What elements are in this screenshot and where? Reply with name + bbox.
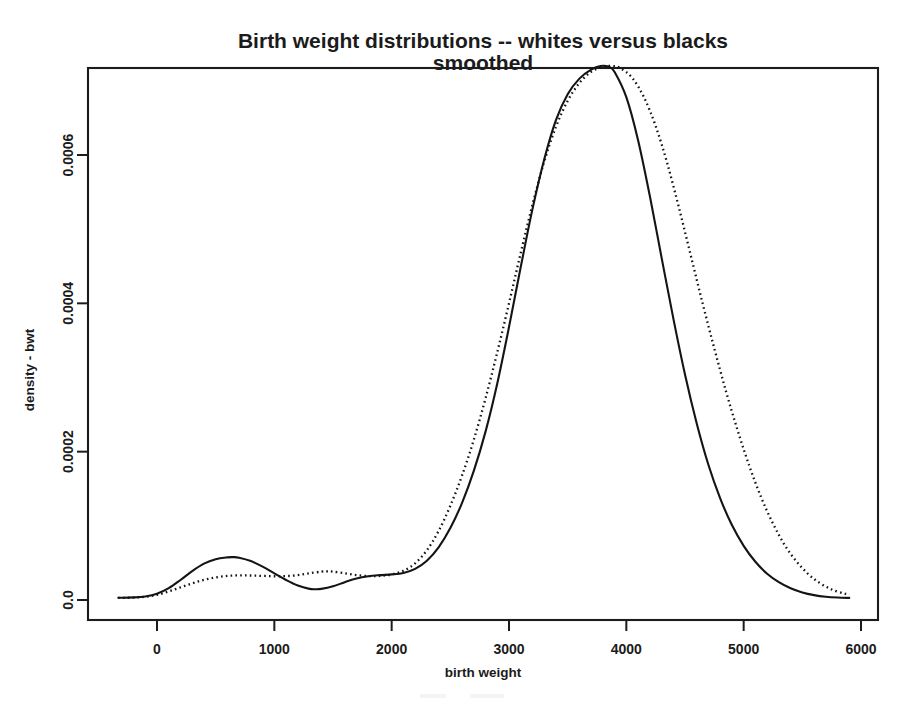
plot-subtitle: smoothed	[433, 51, 533, 74]
y-tick-label: 0.0004	[60, 282, 76, 325]
x-tick-label: 6000	[845, 641, 876, 657]
scan-speck	[420, 694, 446, 698]
y-tick-label: 0.0006	[60, 133, 76, 176]
y-tick-label: 0.0002	[60, 430, 76, 473]
plot-title: Birth weight distributions -- whites ver…	[238, 29, 728, 52]
x-tick-label: 0	[153, 641, 161, 657]
x-tick-label: 1000	[259, 641, 290, 657]
x-tick-label: 4000	[611, 641, 642, 657]
y-tick-label: 0.0	[60, 590, 76, 610]
scan-speck	[470, 694, 504, 698]
x-tick-label: 3000	[493, 641, 524, 657]
x-axis-title: birth weight	[445, 665, 522, 680]
x-tick-label: 5000	[728, 641, 759, 657]
density-plot-figure: Birth weight distributions -- whites ver…	[0, 0, 916, 708]
y-axis-title: density - bwt	[22, 328, 37, 411]
figure-background	[0, 0, 916, 708]
x-tick-label: 2000	[376, 641, 407, 657]
